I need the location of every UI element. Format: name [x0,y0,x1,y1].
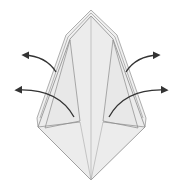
origami-diagram [0,0,182,183]
paper-kite-body [38,16,145,180]
arrow-left-upper-icon [24,55,56,72]
arrow-right-upper-icon [126,55,158,72]
